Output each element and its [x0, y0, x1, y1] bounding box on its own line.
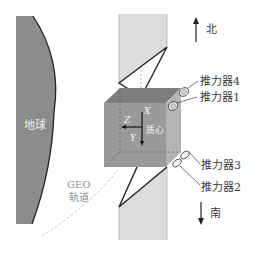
- thruster-1-label: 推力器1: [200, 92, 240, 104]
- geo-orbit-label-line2: 轨道: [67, 191, 91, 204]
- thruster-2-label: 推力器2: [201, 182, 241, 194]
- geo-orbit-label-line1: GEO: [67, 178, 91, 191]
- thruster-4-label: 推力器4: [200, 76, 240, 88]
- z-axis-label: Z: [124, 114, 130, 126]
- y-axis-label: Y: [130, 132, 136, 144]
- satellite-thruster-diagram: 地球 GEO 轨道 北 南 X Z Y 质心 推力器4 推力器1 推力器3 推力…: [0, 0, 258, 254]
- solar-panel-north: [119, 14, 167, 83]
- north-arrow-icon: [193, 17, 199, 24]
- leader-line-thruster-2: [180, 166, 200, 185]
- thruster-3-label: 推力器3: [201, 160, 241, 172]
- x-axis-label: X: [144, 105, 150, 117]
- south-label: 南: [210, 208, 221, 220]
- solar-panel-south: [119, 167, 167, 240]
- leader-line-thruster-3: [189, 152, 200, 164]
- geo-orbit-label: GEO 轨道: [67, 178, 91, 204]
- earth-label: 地球: [24, 120, 46, 132]
- center-of-mass-label: 质心: [146, 124, 164, 136]
- south-arrow-icon: [198, 218, 204, 225]
- north-label: 北: [206, 24, 217, 36]
- leader-line-thruster-4: [188, 81, 198, 88]
